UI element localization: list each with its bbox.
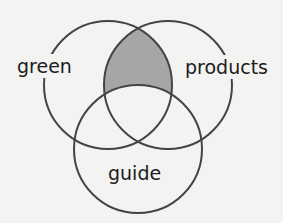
label-products: products [185, 56, 268, 78]
label-green: green [17, 55, 72, 77]
venn-diagram: green products guide [0, 0, 283, 223]
label-guide: guide [108, 162, 161, 184]
